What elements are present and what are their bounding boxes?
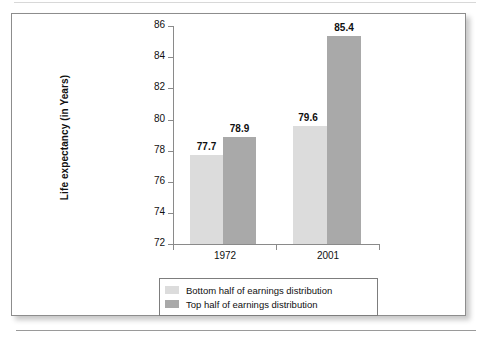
page-top-rule — [14, 2, 476, 3]
y-tick-mark — [168, 120, 174, 121]
y-tick-label: 74 — [154, 206, 165, 217]
y-axis-tick-86: 86 — [173, 26, 174, 27]
x-category-label-2001: 2001 — [284, 250, 372, 261]
y-tick-label: 82 — [154, 81, 165, 92]
y-axis-tick-80: 80 — [173, 120, 174, 121]
legend-item-bottom-half[interactable]: Bottom half of earnings distribution — [165, 283, 372, 297]
bar-1972-top-half[interactable] — [223, 137, 256, 244]
y-tick-label: 84 — [154, 50, 165, 61]
y-tick-label: 72 — [154, 237, 165, 248]
y-tick-mark — [168, 151, 174, 152]
y-tick-label: 78 — [154, 144, 165, 155]
plot-area: 86 84 82 80 78 76 — [173, 26, 379, 245]
y-axis-tick-84: 84 — [173, 57, 174, 58]
bar-value-label-1972-bottom: 77.7 — [190, 141, 223, 152]
legend-item-label: Bottom half of earnings distribution — [186, 285, 332, 296]
y-tick-label: 80 — [154, 113, 165, 124]
bar-1972-bottom-half[interactable] — [190, 155, 223, 244]
legend-item-top-half[interactable]: Top half of earnings distribution — [165, 297, 372, 311]
x-axis-tick-end — [379, 245, 380, 250]
x-category-label-1972: 1972 — [181, 250, 269, 261]
y-tick-mark — [168, 182, 174, 183]
y-axis-tick-78: 78 — [173, 151, 174, 152]
y-axis-title: Life expectancy (in Years) — [59, 38, 70, 238]
x-axis-tick-mid — [276, 245, 277, 250]
bar-2001-top-half[interactable] — [327, 36, 361, 244]
y-axis-tick-74: 74 — [173, 213, 174, 214]
bar-chart: Life expectancy (in Years) 86 84 82 80 — [12, 14, 465, 315]
bar-value-label-2001-bottom: 79.6 — [291, 112, 325, 123]
bar-value-label-1972-top: 78.9 — [223, 123, 256, 134]
legend-swatch-icon — [165, 300, 179, 308]
chart-legend: Bottom half of earnings distribution Top… — [159, 278, 378, 316]
y-tick-mark — [168, 57, 174, 58]
y-tick-label: 86 — [154, 19, 165, 30]
legend-swatch-icon — [165, 286, 179, 294]
x-axis-tick-start — [173, 245, 174, 250]
bar-2001-bottom-half[interactable] — [293, 126, 327, 244]
page-bottom-rule — [16, 330, 476, 331]
y-tick-mark — [168, 26, 174, 27]
y-tick-mark — [168, 213, 174, 214]
y-tick-mark — [168, 88, 174, 89]
y-axis-tick-82: 82 — [173, 88, 174, 89]
y-tick-label: 76 — [154, 175, 165, 186]
y-axis-tick-76: 76 — [173, 182, 174, 183]
figure-frame: Life expectancy (in Years) 86 84 82 80 — [11, 13, 466, 316]
bar-value-label-2001-top: 85.4 — [327, 22, 361, 33]
legend-item-label: Top half of earnings distribution — [186, 299, 318, 310]
